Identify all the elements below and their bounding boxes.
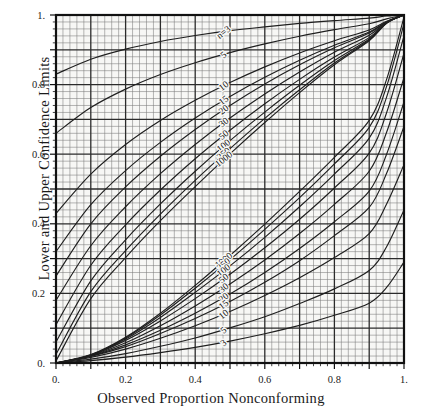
y-tick-label: 0. <box>37 358 45 369</box>
y-axis-title: Lower and Upper Confidence Limits <box>36 39 53 299</box>
x-tick-label: 0. <box>52 374 60 385</box>
x-tick-label: 0.6 <box>258 374 271 385</box>
x-axis-title: Observed Proportion Nonconforming <box>0 390 422 407</box>
confidence-limits-nomograph: Lower and Upper Confidence Limits Observ… <box>0 0 422 420</box>
plot-svg: n=35101520305010025010001000250100503020… <box>0 0 422 420</box>
x-tick-label: 0.8 <box>328 374 341 385</box>
x-tick-label: 1. <box>400 374 408 385</box>
x-tick-label: 0.2 <box>119 374 132 385</box>
x-tick-label: 0.4 <box>189 374 203 385</box>
y-tick-label: 1. <box>37 10 45 21</box>
